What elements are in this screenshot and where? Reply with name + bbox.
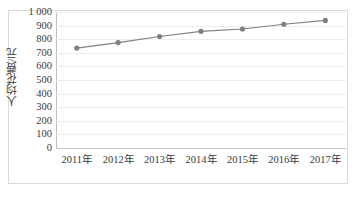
gridline xyxy=(56,148,346,149)
x-axis-tick-labels: 2011年2012年2013年2014年2015年2016年2017年 xyxy=(56,154,346,170)
x-tick-label: 2016年 xyxy=(268,154,299,166)
data-point-marker xyxy=(198,29,203,34)
y-tick-label: 800 xyxy=(12,34,52,44)
y-tick-label: 400 xyxy=(12,89,52,99)
y-tick-label: 100 xyxy=(12,129,52,139)
y-tick-label: 700 xyxy=(12,48,52,58)
x-tick-label: 2014年 xyxy=(186,154,217,166)
plot-area xyxy=(56,12,346,148)
figure-container: 人均花费/元 01002003004005006007008009001 000… xyxy=(0,0,358,197)
x-tick-label: 2011年 xyxy=(61,154,92,166)
data-point-marker xyxy=(281,22,286,27)
x-tick-label: 2012年 xyxy=(103,154,134,166)
data-point-marker xyxy=(157,34,162,39)
y-axis-tick-labels: 01002003004005006007008009001 000 xyxy=(8,12,52,148)
series-line xyxy=(77,20,326,48)
y-tick-label: 900 xyxy=(12,21,52,31)
data-point-marker xyxy=(323,18,328,23)
y-tick-label: 300 xyxy=(12,102,52,112)
data-point-marker xyxy=(116,40,121,45)
data-point-marker xyxy=(240,26,245,31)
y-tick-label: 200 xyxy=(12,116,52,126)
x-tick-label: 2013年 xyxy=(144,154,175,166)
data-point-marker xyxy=(74,45,79,50)
x-tick-label: 2015年 xyxy=(227,154,258,166)
y-tick-label: 500 xyxy=(12,75,52,85)
y-tick-label: 0 xyxy=(12,143,52,153)
bottom-caption xyxy=(0,189,358,197)
y-tick-label: 600 xyxy=(12,61,52,71)
x-tick-label: 2017年 xyxy=(310,154,341,166)
y-tick-label: 1 000 xyxy=(12,7,52,17)
line-series xyxy=(56,12,346,148)
